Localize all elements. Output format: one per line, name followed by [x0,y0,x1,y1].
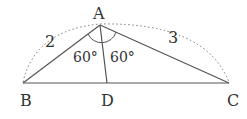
triangle-diagram: A B C D 2 3 60° 60° [0,0,247,119]
point-label-c: C [227,91,239,110]
side-label-ab: 2 [45,32,55,51]
side-label-ac: 3 [168,28,178,47]
point-label-b: B [20,91,32,110]
angle-label-dac: 60° [110,49,135,65]
angle-label-bad: 60° [73,49,98,65]
bisector-ad [100,25,107,83]
point-label-d: D [101,91,114,110]
point-label-a: A [92,4,105,23]
